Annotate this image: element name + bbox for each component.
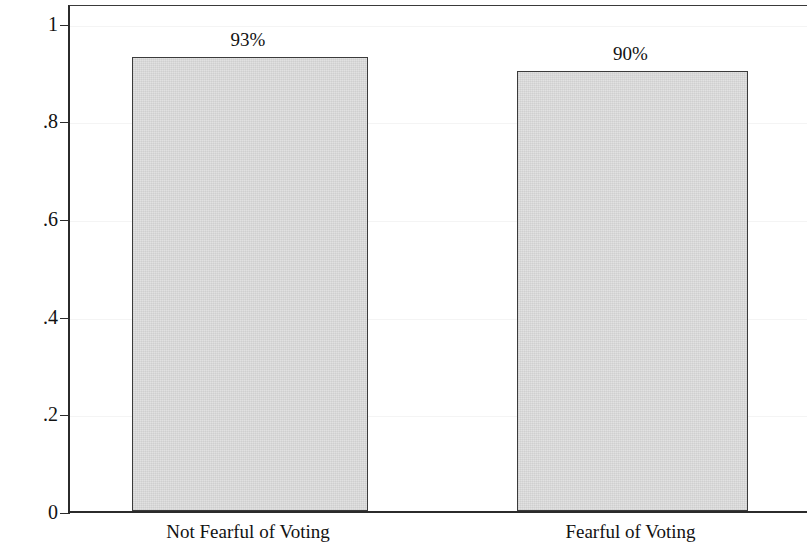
gridline [70, 26, 807, 27]
plot-area [68, 5, 807, 513]
y-tick-label: 1 [14, 14, 58, 34]
y-tick-label: .6 [14, 209, 58, 229]
y-tick-label: 0 [14, 502, 58, 522]
bar [517, 71, 748, 511]
bar-chart: Intend to Vote (Share) 0.2.4.6.81 93%90%… [0, 0, 807, 547]
x-axis-category-label: Not Fearful of Voting [70, 522, 426, 541]
y-tick-label: .8 [14, 111, 58, 131]
x-axis-category-label: Fearful of Voting [455, 522, 806, 541]
y-tick-label: .4 [14, 307, 58, 327]
plot-inner [70, 6, 807, 511]
bar-value-label: 93% [130, 30, 366, 49]
bar [132, 57, 368, 511]
y-tick-label: .2 [14, 404, 58, 424]
bar-value-label: 90% [515, 44, 746, 63]
y-tick-mark [60, 513, 70, 514]
